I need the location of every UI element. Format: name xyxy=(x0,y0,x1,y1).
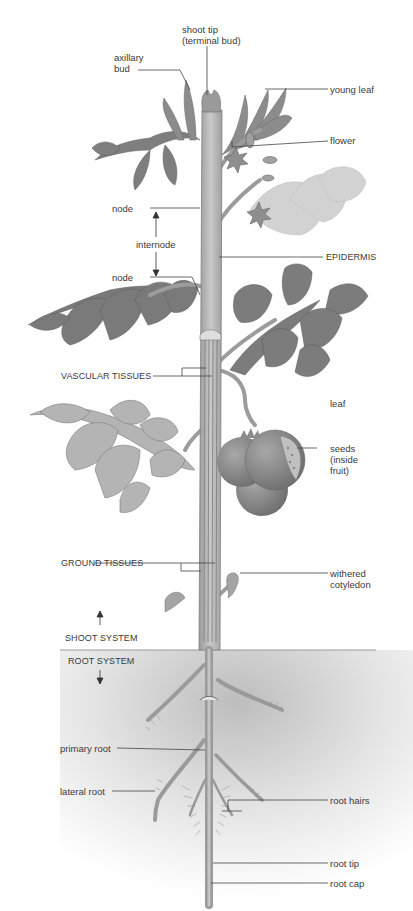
young-leaves xyxy=(163,80,292,155)
label-withered-cotyledon: withered cotyledon xyxy=(330,568,371,590)
label-seeds: seeds (inside fruit) xyxy=(330,443,358,476)
label-epidermis: EPIDERMIS xyxy=(326,252,376,263)
main-stem xyxy=(199,90,222,650)
left-leaf-cluster xyxy=(28,280,198,345)
lower-left-leaf xyxy=(30,400,195,512)
label-shoot-system: SHOOT SYSTEM xyxy=(65,633,138,644)
right-leaf xyxy=(230,264,368,377)
label-ground-tissues: GROUND TISSUES xyxy=(61,558,143,569)
label-root-tip: root tip xyxy=(330,858,359,869)
label-vascular-tissues: VASCULAR TISSUES xyxy=(61,371,151,382)
label-root-cap: root cap xyxy=(330,878,364,889)
label-root-hairs: root hairs xyxy=(330,795,370,806)
label-young-leaf: young leaf xyxy=(330,84,374,95)
label-shoot-tip: shoot tip (terminal bud) xyxy=(182,24,241,46)
label-leaf: leaf xyxy=(330,398,345,409)
upper-left-leaves xyxy=(92,132,200,191)
label-primary-root: primary root xyxy=(60,743,111,754)
label-node-lower: node xyxy=(112,272,133,283)
label-axillary-bud: axillary bud xyxy=(114,52,144,74)
plant-diagram: shoot tip (terminal bud) axillary bud yo… xyxy=(0,0,413,911)
label-flower: flower xyxy=(330,135,355,146)
label-internode: internode xyxy=(136,239,176,250)
label-lateral-root: lateral root xyxy=(60,786,105,797)
label-node-upper: node xyxy=(112,203,133,214)
label-root-system: ROOT SYSTEM xyxy=(68,656,134,667)
tomato-fruits xyxy=(217,428,305,516)
